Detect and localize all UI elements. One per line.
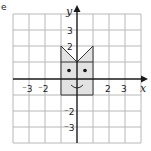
y-tick-label: ⁻3 xyxy=(64,123,74,133)
y-axis-label: y xyxy=(65,5,73,18)
figure-label: e xyxy=(1,2,7,12)
right-eye-icon xyxy=(83,69,87,73)
x-tick-label: ⁻2 xyxy=(38,84,48,94)
y-tick-label: 2 xyxy=(67,42,73,52)
y-tick-label: ⁻2 xyxy=(64,107,74,117)
x-tick-label: ⁻3 xyxy=(22,84,32,94)
coordinate-grid-figure: e x y ⁻3 ⁻2 2 3 3 2 ⁻2 ⁻3 xyxy=(0,0,151,151)
y-axis-arrow-icon xyxy=(74,5,81,12)
y-tick-label: 3 xyxy=(67,26,73,36)
x-tick-label: 3 xyxy=(121,84,127,94)
x-tick-label: 2 xyxy=(105,84,111,94)
x-axis-label: x xyxy=(140,82,147,95)
left-eye-icon xyxy=(67,69,71,73)
